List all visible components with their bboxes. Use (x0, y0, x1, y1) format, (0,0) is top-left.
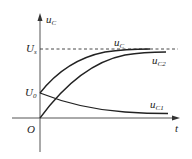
y-axis-label: uC (46, 13, 57, 27)
u0-label: U0 (25, 86, 37, 100)
t-axis-label: t (175, 122, 179, 134)
t-axis-arrow-icon (172, 116, 180, 121)
curve-uc1-label: uC1 (150, 98, 164, 112)
curve-uc2-label: uC2 (152, 54, 166, 68)
curve-uc1 (40, 93, 168, 114)
us-label: Us (26, 42, 37, 56)
curve-uc2 (40, 52, 166, 118)
curve-uc-label: uC (114, 36, 125, 50)
capacitor-voltage-diagram: uC Us U0 O t uC uC2 uC1 (0, 0, 192, 159)
origin-label: O (27, 123, 35, 135)
axes (12, 13, 180, 152)
y-axis-arrow-icon (38, 13, 43, 21)
curve-uc (40, 49, 150, 93)
